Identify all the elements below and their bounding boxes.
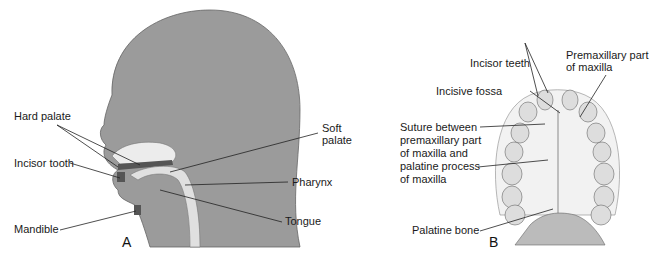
label-suture-line3: of maxilla and [400, 147, 468, 160]
label-soft-palate-line2: palate [322, 134, 352, 147]
label-suture-line5: of maxilla [400, 173, 446, 186]
label-premaxillary-line2: of maxilla [566, 61, 612, 74]
label-incisor-teeth: Incisor teeth [470, 57, 530, 70]
panel-letter-a: A [122, 234, 131, 250]
label-palatine-bone: Palatine bone [412, 224, 479, 237]
label-mandible: Mandible [14, 223, 59, 236]
mandible-tooth-shape [134, 205, 141, 215]
label-hard-palate: Hard palate [14, 110, 71, 123]
incisor-tooth-shape [117, 172, 125, 182]
label-incisive-fossa: Incisive fossa [436, 85, 502, 98]
label-tongue: Tongue [285, 215, 321, 228]
label-pharynx: Pharynx [292, 176, 332, 189]
label-incisor-tooth: Incisor tooth [14, 157, 74, 170]
head-silhouette [100, 10, 300, 247]
label-suture-line2: premaxillary part [400, 134, 481, 147]
panel-letter-b: B [489, 234, 498, 250]
label-suture-line1: Suture between [400, 121, 477, 134]
panel-b-illustration [495, 90, 619, 245]
label-suture-line4: palatine process [400, 160, 480, 173]
